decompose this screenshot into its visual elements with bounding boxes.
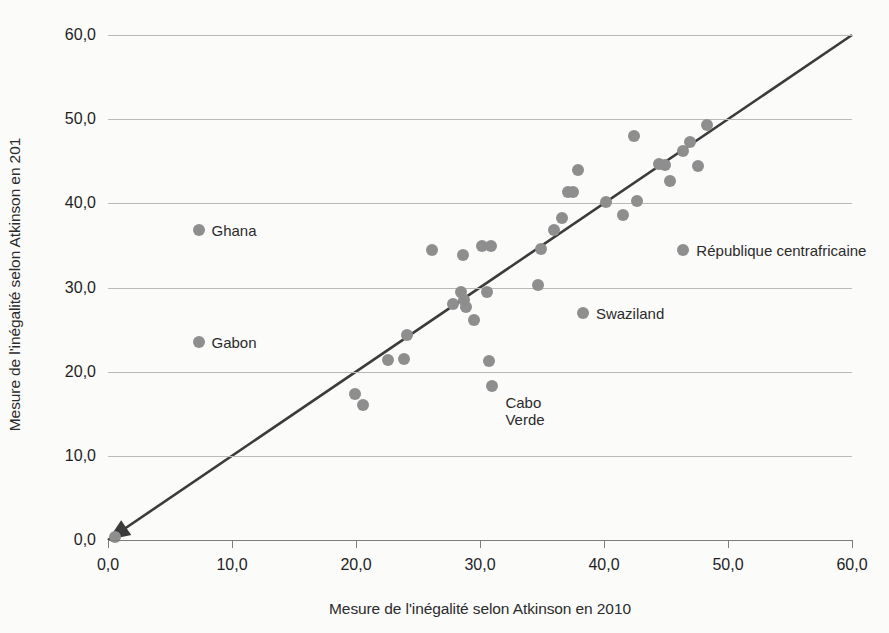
data-point[interactable] — [426, 244, 438, 256]
y-axis-tick-label: 20,0 — [24, 363, 96, 381]
data-point[interactable] — [684, 136, 696, 148]
data-point[interactable] — [447, 298, 459, 310]
x-axis-tick-label: 60,0 — [836, 556, 867, 574]
y-axis-tick-label: 30,0 — [24, 279, 96, 297]
x-axis-tick — [728, 540, 729, 548]
gridline-y — [108, 203, 852, 204]
data-point[interactable] — [483, 355, 495, 367]
data-point[interactable] — [701, 119, 713, 131]
data-point[interactable] — [535, 243, 547, 255]
gridline-y — [108, 35, 852, 36]
gridline-y — [108, 119, 852, 120]
data-point[interactable] — [617, 209, 629, 221]
x-axis-tick-label: 40,0 — [588, 556, 619, 574]
data-point[interactable] — [556, 212, 568, 224]
x-axis-tick — [604, 540, 605, 548]
y-axis-tick-label: 10,0 — [24, 447, 96, 465]
data-point[interactable] — [572, 164, 584, 176]
data-point[interactable] — [567, 186, 579, 198]
x-axis-tick-label: 10,0 — [216, 556, 247, 574]
data-point[interactable] — [664, 175, 676, 187]
gridline-y — [108, 372, 852, 373]
x-axis-tick-label: 0,0 — [97, 556, 119, 574]
x-axis-tick — [480, 540, 481, 548]
data-point[interactable] — [193, 224, 205, 236]
x-axis-tick-label: 20,0 — [340, 556, 371, 574]
point-annotation-label: Cabo Verde — [505, 394, 544, 428]
y-axis-tick-label: 50,0 — [24, 110, 96, 128]
x-axis-tick-label: 50,0 — [712, 556, 743, 574]
data-point[interactable] — [457, 249, 469, 261]
y-axis-tick-label: 40,0 — [24, 194, 96, 212]
y-axis-tick-labels: 0,010,020,030,040,050,060,0 — [18, 0, 96, 633]
x-axis-title: Mesure de l'inégalité selon Atkinson en … — [108, 600, 852, 618]
data-point[interactable] — [577, 307, 589, 319]
x-axis-tick — [232, 540, 233, 548]
x-axis-tick — [852, 540, 853, 548]
point-annotation-label: Swaziland — [596, 304, 664, 321]
point-annotation-label: Ghana — [212, 222, 257, 239]
x-axis-tick — [108, 540, 109, 548]
scatter-chart-figure: Mesure de l'inégalité selon Atkinson en … — [0, 0, 889, 633]
y-axis-tick-label: 60,0 — [24, 26, 96, 44]
data-point[interactable] — [628, 130, 640, 142]
plot-area: GhanaGabonCabo VerdeSwazilandRépublique … — [108, 35, 852, 540]
gridline-y — [108, 456, 852, 457]
data-point[interactable] — [193, 336, 205, 348]
gridline-y — [108, 288, 852, 289]
data-point[interactable] — [349, 388, 361, 400]
point-annotation-label: Gabon — [212, 334, 257, 351]
x-axis-tick-label: 30,0 — [464, 556, 495, 574]
x-axis-tick — [356, 540, 357, 548]
y-axis-tick-label: 0,0 — [24, 531, 96, 549]
point-annotation-label: République centrafricaine — [696, 242, 866, 259]
